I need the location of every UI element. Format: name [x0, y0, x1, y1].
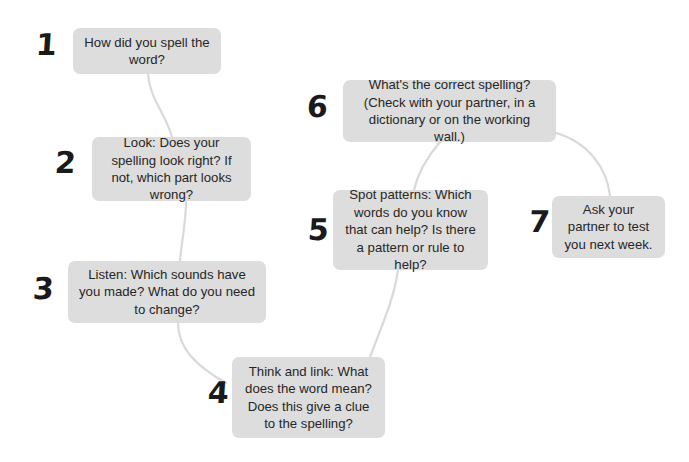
connector-5-to-6 — [414, 142, 440, 190]
step-text-4: Think and link: What does the word mean?… — [242, 363, 375, 433]
connector-6-to-7 — [556, 133, 610, 196]
step-box-6[interactable]: What's the correct spelling? (Check with… — [343, 80, 556, 142]
step-box-4[interactable]: Think and link: What does the word mean?… — [232, 357, 385, 438]
connector-1-to-2 — [148, 74, 172, 137]
step-text-3: Listen: Which sounds have you made? What… — [78, 266, 256, 318]
step-box-2[interactable]: Look: Does your spelling look right? If … — [92, 137, 251, 201]
spelling-strategy-diagram: 1 How did you spell the word? 2 Look: Do… — [0, 0, 689, 462]
step-text-1: How did you spell the word? — [83, 34, 211, 69]
step-text-5: Spot patterns: Which words do you know t… — [343, 186, 478, 273]
step-number-6: 6 — [306, 92, 328, 122]
step-text-6: What's the correct spelling? (Check with… — [353, 76, 546, 146]
step-box-7[interactable]: Ask your partner to test you next week. — [552, 196, 665, 258]
step-box-5[interactable]: Spot patterns: Which words do you know t… — [333, 190, 488, 270]
step-text-2: Look: Does your spelling look right? If … — [102, 134, 241, 204]
step-number-5: 5 — [307, 215, 329, 245]
step-text-7: Ask your partner to test you next week. — [562, 201, 655, 253]
connector-3-to-4 — [178, 323, 226, 383]
step-number-4: 4 — [207, 378, 229, 408]
step-box-1[interactable]: How did you spell the word? — [73, 28, 221, 74]
step-box-3[interactable]: Listen: Which sounds have you made? What… — [68, 261, 266, 323]
step-number-2: 2 — [54, 148, 76, 178]
step-number-1: 1 — [35, 30, 57, 60]
step-number-3: 3 — [32, 274, 54, 304]
step-number-7: 7 — [528, 207, 550, 237]
connector-4-to-5 — [370, 270, 398, 357]
connector-2-to-3 — [180, 201, 186, 261]
